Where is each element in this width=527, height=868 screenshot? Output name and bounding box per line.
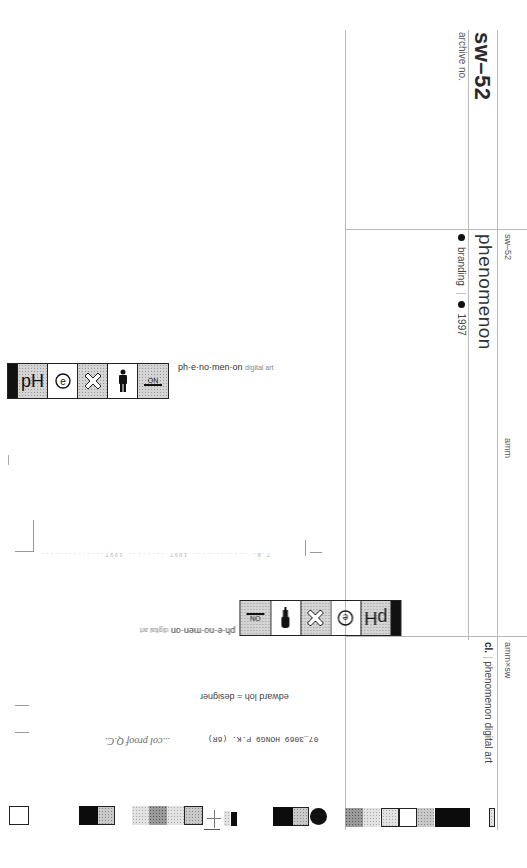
logo-inverted-group: pH e ON ph·e·no·men·on digital art	[140, 600, 401, 636]
lightbulb-icon	[270, 601, 300, 635]
swatch-grey-light	[132, 806, 149, 825]
ph-glyph-icon: pH	[18, 364, 48, 398]
panel-border-outer	[497, 30, 498, 830]
meta-year: 1997	[456, 314, 467, 336]
swatch-grey-bordered	[184, 806, 203, 825]
swatch-grey-dark	[345, 808, 363, 827]
bullet-icon	[458, 234, 465, 241]
swatch-grey-bordered	[381, 808, 399, 827]
swatch-black-small	[231, 812, 237, 826]
swatch-grey	[98, 806, 115, 825]
project-title: phenomenon	[474, 234, 496, 350]
designer-credit: edward loh = designer	[200, 692, 289, 702]
ph-glyph-icon: pH	[360, 601, 390, 635]
swatch-black	[273, 807, 293, 826]
print-code: 07_3069 HONG9 P.K. (6R)	[208, 735, 318, 744]
header-code: sw–52	[503, 234, 513, 260]
handwritten-note: ...col proof Q.C.	[105, 736, 170, 747]
panel-border-left	[345, 30, 346, 830]
swatch-grey-light	[167, 806, 184, 825]
x-cross-icon	[300, 601, 330, 635]
meta-category: branding	[456, 247, 467, 286]
swatch-grey	[293, 807, 309, 826]
project-meta: branding | 1997	[456, 234, 467, 336]
swatch-partial	[489, 808, 495, 827]
logo-upright: pH e ON	[7, 363, 169, 399]
credit-code: amm×sw	[503, 642, 513, 678]
swatch-white	[9, 806, 29, 825]
swatch-black	[79, 806, 98, 825]
client-prefix: cl.	[483, 642, 494, 653]
client-line: cl. | phenomenon digital art	[483, 642, 494, 763]
swatch-grey	[417, 808, 434, 827]
x-cross-icon	[78, 364, 108, 398]
logo-bar	[8, 364, 18, 398]
person-icon	[108, 364, 138, 398]
faint-print-line: T.B. ............ 1997 ........ 1997....…	[40, 551, 270, 558]
archive-number: sw–52	[469, 32, 495, 101]
crop-mark	[310, 552, 322, 553]
studio-label: amm	[503, 438, 513, 458]
crop-mark	[15, 551, 33, 552]
archive-label: archive no.	[457, 32, 468, 81]
crop-mark	[15, 732, 29, 733]
swatch-white	[399, 808, 417, 827]
e-circle-icon: e	[48, 364, 78, 398]
registration-mark	[204, 829, 220, 830]
crop-mark	[15, 705, 29, 706]
logo-inverted: pH e ON	[239, 600, 401, 636]
svg-text:e: e	[60, 376, 66, 387]
crop-mark	[8, 455, 9, 465]
swatch-grey-small	[224, 811, 230, 826]
swatch-grey-light	[363, 808, 380, 827]
on-switch-icon: ON	[240, 601, 270, 635]
logo-tagline-inverted: ph·e·no·men·on digital art	[140, 626, 235, 636]
svg-text:e: e	[343, 613, 349, 624]
on-switch-icon: ON	[138, 364, 168, 398]
crop-mark	[33, 520, 34, 552]
panel-divider-2	[345, 636, 527, 637]
client-name: phenomenon digital art	[483, 661, 494, 763]
panel-divider-1	[345, 229, 527, 230]
registration-mark	[207, 818, 221, 819]
black-dot-swatch	[310, 808, 327, 825]
crop-mark	[305, 540, 306, 556]
e-circle-icon: e	[330, 601, 360, 635]
panel-border-inner	[468, 30, 469, 640]
swatch-grey-dark	[149, 806, 167, 825]
swatch-black-wide	[435, 808, 470, 827]
bullet-icon	[458, 301, 465, 308]
meta-separator: |	[456, 292, 467, 295]
registration-mark	[214, 810, 215, 828]
logo-tagline-upright: ph·e·no·men·on digital art	[178, 362, 273, 372]
